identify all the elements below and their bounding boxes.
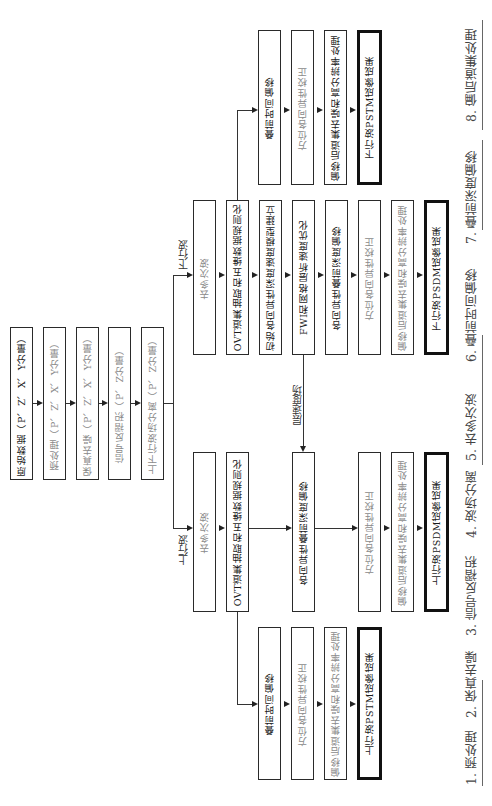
connector — [237, 110, 252, 111]
box-up-pstm-result: 上行波PSTM成像成果 — [357, 627, 382, 780]
connector — [315, 528, 352, 529]
box-down-demultiple: 去多次波 — [193, 200, 216, 355]
box-up-pstm-azimuth: 方位各向异性校正 — [291, 627, 314, 780]
legend-item-5: 5. 去多次波 — [462, 393, 481, 461]
arrow-icon — [350, 107, 356, 113]
box-up-psdm: 各向异性叠前深度偏移 — [292, 452, 315, 612]
connector — [173, 528, 187, 529]
arrow-icon — [135, 400, 141, 406]
arrow-icon — [285, 272, 291, 278]
arrow-icon — [284, 107, 290, 113]
arrow-icon — [102, 400, 108, 406]
connector — [237, 704, 252, 705]
box-up-pstm: 叠前时间偏移 — [258, 627, 281, 780]
label-upgoing: 上行波 — [176, 535, 191, 565]
arrow-icon — [70, 400, 76, 406]
box-raw-data: 原始数据（P、Z、X、Y分量） — [10, 327, 33, 480]
legend-item-6: 6. 叠前时间偏移 — [462, 268, 481, 362]
connector — [173, 275, 187, 276]
legend-divider — [482, 335, 483, 465]
arrow-icon — [317, 701, 323, 707]
box-down-ovt: OVT道集抽取和五维数据规则化 — [226, 200, 249, 355]
arrow-icon — [37, 400, 43, 406]
box-down-pstm-postproc: 偏移后道集去噪和高分辨率处理 — [324, 30, 347, 185]
box-denoise: 保真去噪（P、Z、X、Y分量） — [76, 327, 99, 480]
box-down-azimuth: 方位各向异性校正 — [358, 200, 381, 355]
box-up-postproc: 偏移后道集去噪和高分辨率处理 — [391, 452, 414, 612]
arrow-icon — [417, 525, 423, 531]
box-down-psdm: 各向异性叠前深度偏移 — [325, 200, 348, 355]
legend-divider — [482, 680, 483, 786]
connector — [237, 110, 238, 200]
box-down-postproc: 偏移后道集去噪和高分辨率处理 — [391, 200, 414, 355]
arrow-icon — [284, 701, 290, 707]
box-down-pstm-result: 下行波PSTM成像成果 — [357, 30, 382, 185]
processing-flowchart: 原始数据（P、Z、X、Y分量） 预处理（P、Z、X、Y分量） 保真去噪（P、Z、… — [0, 0, 492, 806]
legend-item-4: 4. 波场分离 — [462, 470, 481, 538]
arrow-icon — [219, 272, 225, 278]
arrow-icon — [286, 525, 292, 531]
connector — [237, 612, 238, 704]
connector — [249, 528, 286, 529]
legend-item-1: 1. 预处理 — [462, 730, 481, 785]
legend-item-3: 3. 信号反褶积 — [462, 555, 481, 636]
box-down-initial-model: 初始各向异性深度速度模型建立 — [259, 200, 282, 355]
box-down-pstm: 叠前时间偏移 — [258, 30, 281, 185]
branch-line — [173, 275, 174, 528]
legend-item-2: 2. 保真去噪 — [462, 650, 481, 718]
arrow-icon — [417, 272, 423, 278]
box-up-demultiple: 去多次波 — [193, 452, 216, 612]
box-down-psdm-result: 下行波PSDM成像成果 — [424, 200, 449, 355]
box-deconvolution: 信号反褶积（P、Z分量） — [108, 327, 131, 480]
legend-divider — [482, 20, 483, 130]
box-wavefield-separation: 上下行波场分离（P、Z分量） — [141, 327, 164, 480]
box-up-psdm-result: 上行波PSDM成像成果 — [424, 452, 449, 612]
arrow-icon — [252, 272, 258, 278]
connector — [164, 403, 173, 404]
legend-item-8: 8. 偏后道集处理 — [462, 28, 481, 122]
box-up-ovt: OVT道集抽取和五维数据规则化 — [226, 452, 249, 612]
box-up-pstm-postproc: 偏移后道集去噪和高分辨率处理 — [324, 627, 347, 780]
arrow-icon — [352, 525, 358, 531]
arrow-icon — [219, 525, 225, 531]
legend-item-7: 7. 叠前深度偏移 — [462, 150, 481, 244]
arrow-icon — [384, 525, 390, 531]
arrow-icon — [317, 107, 323, 113]
label-velocity-field: 层速度场 — [290, 385, 305, 425]
box-down-pstm-azimuth: 方位各向异性校正 — [291, 30, 314, 185]
arrow-icon — [351, 272, 357, 278]
box-down-fwi: FWI和网格层析速度优化 — [292, 200, 315, 355]
arrow-icon — [350, 701, 356, 707]
arrow-icon — [318, 272, 324, 278]
box-up-azimuth: 方位各向异性校正 — [358, 452, 381, 612]
label-downgoing: 下行波 — [176, 240, 191, 270]
box-preprocessing: 预处理（P、Z、X、Y分量） — [43, 327, 66, 480]
legend-divider — [482, 140, 483, 230]
arrow-icon — [384, 272, 390, 278]
